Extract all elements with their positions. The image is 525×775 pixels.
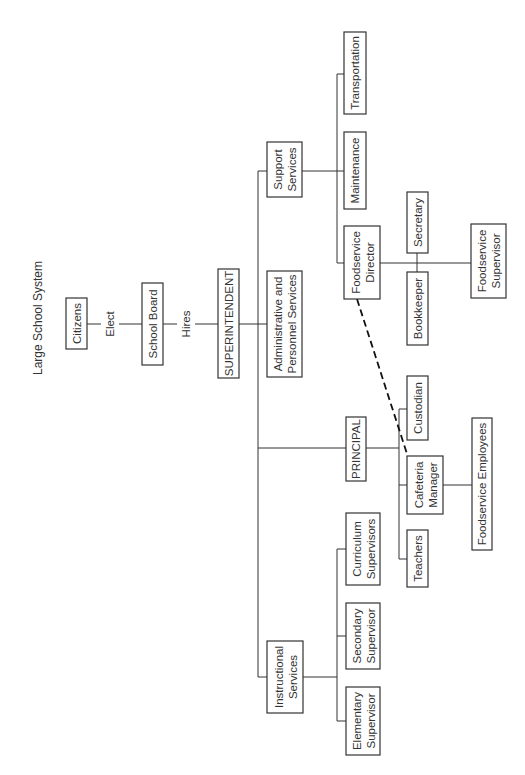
node-custodian: Custodian [407, 376, 428, 440]
svg-text:Curriculum: Curriculum [351, 521, 363, 577]
node-foodservice-supervisor: Foodservice Supervisor [471, 224, 506, 298]
svg-text:SUPERINTENDENT: SUPERINTENDENT [223, 271, 235, 376]
svg-text:Transportation: Transportation [349, 36, 361, 110]
svg-text:Instructional: Instructional [273, 646, 285, 708]
node-school-board: School Board [142, 283, 163, 365]
svg-text:Bookkeeper: Bookkeeper [412, 278, 424, 340]
svg-text:Services: Services [286, 147, 298, 191]
node-principal: PRINCIPAL [346, 417, 366, 481]
svg-text:Foodservice: Foodservice [350, 231, 362, 294]
node-admin-personnel-services: Administrative and Personnel Services [267, 271, 302, 377]
svg-text:Teachers: Teachers [412, 535, 424, 582]
svg-text:Services: Services [287, 655, 299, 699]
svg-text:PRINCIPAL: PRINCIPAL [350, 418, 362, 478]
edge-label-elect: Elect [104, 310, 116, 336]
node-maintenance: Maintenance [344, 132, 366, 209]
node-cafeteria-manager: Cafeteria Manager [407, 456, 443, 514]
svg-text:Supervisor: Supervisor [365, 693, 377, 748]
node-teachers: Teachers [407, 530, 428, 587]
svg-text:Foodservice Employees: Foodservice Employees [476, 422, 488, 545]
svg-text:Secondary: Secondary [351, 608, 363, 663]
node-elementary-supervisor: Elementary Supervisor [346, 687, 380, 755]
node-support-services: Support Services [267, 142, 302, 197]
svg-text:Citizens: Citizens [71, 303, 83, 344]
svg-text:Support: Support [272, 149, 284, 190]
node-instructional-services: Instructional Services [267, 641, 303, 713]
node-curriculum-supervisors: Curriculum Supervisors [346, 513, 380, 585]
node-superintendent: SUPERINTENDENT [218, 269, 239, 378]
svg-text:Supervisor: Supervisor [490, 233, 502, 288]
svg-text:Administrative and: Administrative and [272, 277, 284, 372]
node-foodservice-employees: Foodservice Employees [472, 418, 492, 550]
svg-text:School Board: School Board [147, 289, 159, 358]
svg-text:Personnel Services: Personnel Services [286, 274, 298, 373]
svg-text:Elementary: Elementary [351, 692, 363, 750]
svg-text:Supervisors: Supervisors [365, 518, 377, 579]
node-secretary: Secretary [407, 192, 428, 253]
node-citizens: Citizens [66, 298, 87, 349]
svg-text:Director: Director [364, 242, 376, 282]
svg-text:Manager: Manager [427, 462, 439, 508]
svg-text:Maintenance: Maintenance [349, 138, 361, 204]
node-bookkeeper: Bookkeeper [407, 272, 428, 345]
svg-text:Cafeteria: Cafeteria [413, 461, 425, 508]
node-foodservice-director: Foodservice Director [344, 226, 380, 299]
node-secondary-supervisor: Secondary Supervisor [346, 603, 380, 669]
svg-text:Foodservice: Foodservice [476, 230, 488, 293]
chart-title: Large School System [31, 261, 45, 375]
node-transportation: Transportation [344, 32, 366, 114]
edge-label-hires: Hires [180, 310, 192, 337]
svg-text:Supervisor: Supervisor [365, 608, 377, 663]
org-chart: Large School System [0, 0, 525, 775]
svg-text:Custodian: Custodian [412, 382, 424, 434]
svg-text:Secretary: Secretary [412, 198, 424, 247]
